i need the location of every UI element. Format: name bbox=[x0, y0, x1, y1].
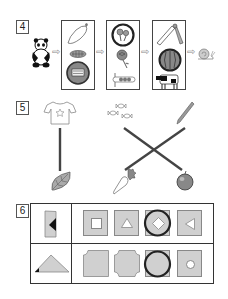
apple-icon bbox=[175, 171, 195, 191]
option-circle-hole[interactable] bbox=[177, 250, 202, 277]
carrot-icon bbox=[112, 167, 138, 195]
option-four-corners-cut[interactable] bbox=[114, 250, 140, 277]
section-number-6: 6 bbox=[16, 204, 29, 218]
option-one-corner-cut[interactable] bbox=[83, 250, 109, 277]
answer-circle-row2 bbox=[143, 249, 172, 279]
triangle-corner-cut-question bbox=[34, 254, 70, 273]
option-square-hole[interactable] bbox=[83, 210, 108, 236]
leaf-icon bbox=[50, 170, 72, 192]
option-triangle-hole[interactable] bbox=[114, 210, 139, 236]
answer-circle-row1 bbox=[143, 208, 172, 238]
shape-puzzle-grid bbox=[30, 203, 214, 284]
grid-horizontal-divider bbox=[31, 243, 213, 244]
option-left-triangle-hole[interactable] bbox=[177, 210, 202, 236]
rectangle-triangle-cut-question bbox=[44, 210, 58, 238]
